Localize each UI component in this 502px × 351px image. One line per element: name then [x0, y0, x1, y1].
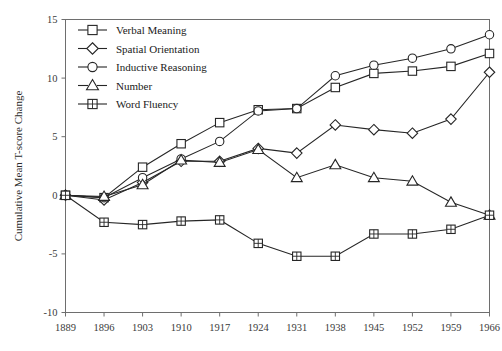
legend-item-label: Spatial Orientation [116, 43, 200, 55]
legend-item-label: Inductive Reasoning [116, 61, 207, 73]
legend-item-label: Word Fluency [116, 98, 179, 110]
data-point [100, 218, 108, 226]
data-point [330, 159, 341, 168]
series-path [66, 35, 490, 198]
data-point [215, 137, 223, 145]
y-tick-label: -10 [44, 307, 58, 318]
y-tick-label: 15 [47, 14, 58, 25]
y-axis-title-label: Cumulative Mean T-score Change [12, 91, 24, 242]
series-path [66, 53, 490, 197]
legend-item-label: Number [116, 80, 152, 92]
data-point [254, 107, 262, 115]
data-point [331, 252, 339, 260]
data-point [177, 140, 185, 148]
series-path [66, 150, 490, 216]
y-tick-label: -5 [49, 248, 58, 259]
data-point [331, 83, 339, 91]
data-point [61, 191, 69, 199]
x-tick-label: 1945 [363, 322, 384, 333]
chart-legend: Verbal MeaningSpatial OrientationInducti… [78, 24, 207, 110]
series-number [60, 144, 495, 219]
legend-marker-circle-icon [88, 62, 97, 71]
legend-marker-diamond-icon [87, 43, 99, 55]
y-axis-title: Cumulative Mean T-score Change [12, 91, 24, 242]
y-axis-ticks: -10-5051015 [44, 14, 66, 318]
y-tick-label: 10 [47, 73, 58, 84]
data-point [369, 124, 380, 135]
data-point [485, 211, 493, 219]
data-point [407, 128, 418, 139]
data-point [215, 216, 223, 224]
x-tick-label: 1903 [132, 322, 153, 333]
data-point [330, 120, 341, 130]
data-point [447, 45, 455, 53]
data-point [370, 61, 378, 69]
legend-marker-square-crossed-icon [88, 99, 97, 108]
series-inductive-reasoning [61, 31, 493, 202]
data-point [485, 31, 493, 39]
legend-item-label: Verbal Meaning [116, 24, 187, 36]
data-point [177, 217, 185, 225]
data-point [447, 225, 455, 233]
data-point [370, 230, 378, 238]
x-tick-label: 1938 [325, 322, 346, 333]
data-point [408, 230, 416, 238]
legend-item-inductive-reasoning[interactable]: Inductive Reasoning [78, 61, 207, 73]
line-chart: Cumulative Mean T-score Change -10-50510… [0, 0, 502, 351]
data-point [138, 163, 146, 171]
data-point [408, 67, 416, 75]
data-point [447, 62, 455, 70]
legend-marker-triangle-icon [87, 80, 99, 90]
x-tick-label: 1889 [55, 322, 76, 333]
data-point [370, 69, 378, 77]
x-axis-ticks: 1889189619031910191719241931193819451952… [55, 313, 500, 333]
data-point [138, 220, 146, 228]
x-tick-label: 1917 [209, 322, 230, 333]
data-point [293, 104, 301, 112]
x-tick-label: 1931 [286, 322, 307, 333]
data-point [254, 239, 262, 247]
data-point [331, 72, 339, 80]
data-point [408, 54, 416, 62]
data-point [215, 118, 223, 126]
legend-item-number[interactable]: Number [78, 80, 152, 92]
series-path [66, 195, 490, 256]
legend-item-spatial-orientation[interactable]: Spatial Orientation [78, 43, 200, 55]
y-tick-label: 5 [52, 131, 57, 142]
chart-container: Cumulative Mean T-score Change -10-50510… [0, 0, 502, 351]
data-point [292, 148, 303, 159]
x-tick-label: 1896 [94, 322, 115, 333]
x-tick-label: 1966 [479, 322, 500, 333]
legend-item-word-fluency[interactable]: Word Fluency [78, 98, 179, 110]
legend-item-verbal-meaning[interactable]: Verbal Meaning [78, 24, 187, 36]
x-tick-label: 1959 [440, 322, 461, 333]
data-point [445, 197, 456, 206]
data-point [485, 49, 493, 57]
series-word-fluency [61, 191, 493, 260]
x-tick-label: 1952 [402, 322, 423, 333]
x-tick-label: 1910 [171, 322, 192, 333]
legend-marker-square-icon [88, 25, 97, 34]
y-tick-label: 0 [52, 190, 57, 201]
data-point [293, 252, 301, 260]
x-tick-label: 1924 [248, 322, 270, 333]
